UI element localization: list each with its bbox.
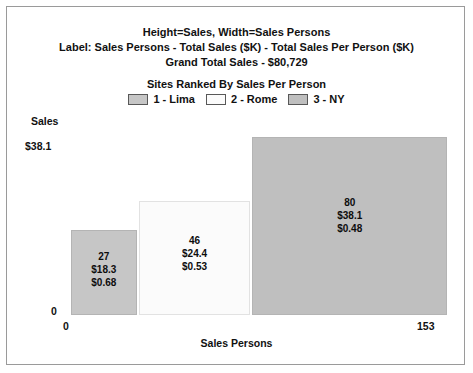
legend-swatch-icon-ny	[288, 94, 308, 105]
chart-subtitle: Sites Ranked By Sales Per Person	[7, 77, 466, 92]
y-axis-title: Sales	[31, 115, 58, 127]
legend-item-lima: 1 - Lima	[128, 93, 195, 105]
chart-header: Height=Sales, Width=Sales Persons Label:…	[7, 25, 466, 70]
bar-rome[interactable]: 46$24.4$0.53	[139, 201, 251, 315]
chart-frame: Height=Sales, Width=Sales Persons Label:…	[6, 6, 465, 365]
bar-label-rome: 46$24.4$0.53	[140, 234, 250, 273]
header-line-1: Height=Sales, Width=Sales Persons	[7, 25, 466, 40]
bar-lima[interactable]: 27$18.3$0.68	[71, 230, 137, 315]
legend-swatch-icon-rome	[206, 94, 226, 105]
legend-swatch-icon-lima	[128, 94, 148, 105]
header-line-2: Label: Sales Persons - Total Sales ($K) …	[7, 40, 466, 55]
legend-label-lima: 1 - Lima	[153, 93, 195, 105]
x-axis-max-tick-label: 153	[417, 320, 435, 332]
chart-legend: 1 - Lima 2 - Rome 3 - NY	[7, 93, 466, 105]
legend-item-ny: 3 - NY	[288, 93, 344, 105]
chart-screenshot: Height=Sales, Width=Sales Persons Label:…	[0, 0, 473, 373]
legend-label-rome: 2 - Rome	[231, 93, 277, 105]
legend-label-ny: 3 - NY	[313, 93, 344, 105]
y-axis-min-tick-label: 0	[51, 305, 57, 317]
x-axis-min-tick-label: 0	[63, 320, 69, 332]
y-axis-max-tick-label: $38.1	[25, 140, 51, 152]
header-line-3: Grand Total Sales - $80,729	[7, 55, 466, 70]
bar-ny[interactable]: 80$38.1$0.48	[252, 137, 447, 315]
plot-area: 27$18.3$0.68 46$24.4$0.53 80$38.1$0.48	[65, 137, 437, 315]
bar-label-lima: 27$18.3$0.68	[72, 250, 136, 289]
x-axis-title: Sales Persons	[7, 337, 466, 349]
legend-item-rome: 2 - Rome	[206, 93, 277, 105]
bar-label-ny: 80$38.1$0.48	[253, 196, 446, 235]
